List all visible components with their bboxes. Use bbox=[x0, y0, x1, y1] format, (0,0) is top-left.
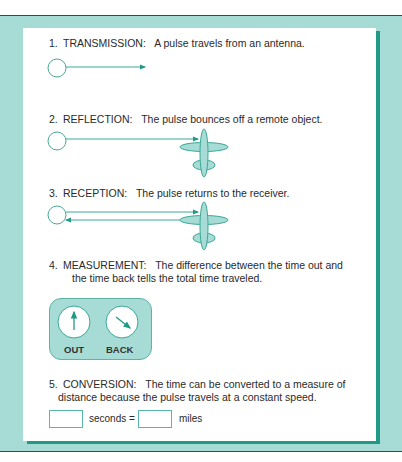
back-label: BACK bbox=[106, 344, 133, 355]
step-reception: 3.RECEPTION: The pulse returns to the re… bbox=[49, 187, 289, 200]
timer-panel: OUT BACK bbox=[49, 298, 152, 360]
out-label: OUT bbox=[64, 344, 84, 355]
miles-input[interactable] bbox=[138, 410, 172, 428]
step-measurement: 4.MEASUREMENT: The difference between th… bbox=[49, 259, 343, 285]
step-conversion: 5.CONVERSION: The time can be converted … bbox=[49, 378, 345, 404]
antenna-icon-3 bbox=[48, 206, 66, 224]
antenna-icon-1 bbox=[48, 59, 66, 77]
airplane-icon-1 bbox=[180, 129, 228, 177]
step-reflection: 2.REFLECTION: The pulse bounces off a re… bbox=[49, 113, 323, 126]
seconds-input[interactable] bbox=[49, 410, 83, 428]
airplane-icon-2 bbox=[180, 202, 228, 250]
antenna-icon-2 bbox=[48, 132, 66, 150]
step-transmission: 1.TRANSMISSION: A pulse travels from an … bbox=[49, 37, 305, 50]
miles-label: miles bbox=[179, 413, 202, 424]
seconds-label: seconds = bbox=[89, 413, 135, 424]
